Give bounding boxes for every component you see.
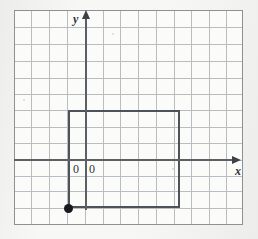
scan-speck <box>23 99 25 101</box>
gridline-horizontal <box>14 78 243 79</box>
gridline-horizontal <box>14 27 243 28</box>
gridline-vertical <box>226 10 227 225</box>
y-axis-label: y <box>73 13 78 25</box>
scan-speck <box>112 33 114 35</box>
gridline-horizontal <box>14 44 243 45</box>
gridline-horizontal <box>14 61 243 62</box>
gridline-vertical <box>209 10 210 225</box>
x-axis-arrowhead <box>232 156 241 164</box>
origin-label-right: 0 <box>89 163 95 175</box>
coordinate-grid-figure: x y 0 0 <box>0 0 258 239</box>
gridline-vertical <box>191 10 192 225</box>
gridline-vertical <box>49 10 50 225</box>
x-axis-label: x <box>235 165 241 177</box>
gridline-horizontal <box>14 208 243 209</box>
origin-label-left: 0 <box>73 163 79 175</box>
x-axis-line <box>14 159 233 161</box>
marked-vertex-dot <box>64 204 73 213</box>
gridline-horizontal <box>14 94 243 95</box>
gridline-vertical <box>31 10 32 225</box>
y-axis-line <box>85 18 87 210</box>
y-axis-arrowhead <box>82 10 90 19</box>
